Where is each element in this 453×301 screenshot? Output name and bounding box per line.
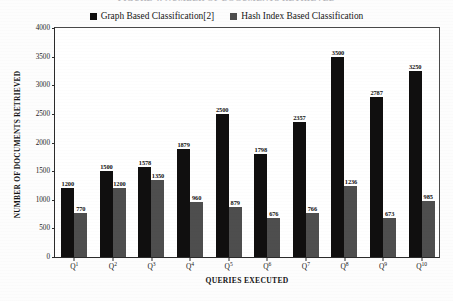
x-tick-label-q8: Q8	[340, 261, 348, 271]
bar-group: 35001236	[325, 28, 364, 257]
x-tick-label-q6: Q6	[263, 261, 271, 271]
x-tick-mark	[383, 257, 384, 261]
bar-q1-series2: 770	[74, 213, 87, 257]
bar-q1-series1: 1200	[61, 188, 74, 257]
y-tick-label: 2000	[36, 139, 55, 147]
bar-q9-series2: 673	[383, 218, 396, 257]
legend-label-series2: Hash Index Based Classification	[241, 11, 363, 21]
bar-value-label: 3500	[332, 49, 344, 56]
bar-value-label: 1879	[177, 141, 189, 148]
bar-q8-series2: 1236	[344, 186, 357, 257]
bar-q5-series1: 2500	[216, 114, 229, 257]
bar-q3-series1: 1578	[138, 167, 151, 257]
y-axis-title: NUMBER OF DOCUMENTS RETRIEVED	[13, 35, 22, 255]
bar-group: 1798676	[248, 28, 287, 257]
bar-value-label: 673	[385, 210, 394, 217]
bar-q6-series1: 1798	[254, 154, 267, 257]
x-tick-mark	[344, 257, 345, 261]
bar-value-label: 2500	[216, 106, 228, 113]
bar-value-label: 770	[76, 205, 85, 212]
figure-title-text: FIGURE 4: NUMBER OF DOCUMENTS RETRIEVED	[0, 0, 453, 3]
figure-title-clipped: FIGURE 4: NUMBER OF DOCUMENTS RETRIEVED	[0, 0, 453, 7]
bar-value-label: 2357	[293, 114, 305, 121]
x-tick-label-q9: Q9	[379, 261, 387, 271]
bar-group: 2787673	[364, 28, 403, 257]
bar-value-label: 1350	[152, 172, 164, 179]
bar-q7-series2: 766	[306, 213, 319, 257]
y-tick-label: 500	[39, 224, 55, 232]
x-tick-label-q7: Q7	[302, 261, 310, 271]
plot-area: 40003500300025002000150010005000 Q112007…	[54, 27, 440, 258]
legend-item-graph-based: Graph Based Classification[2]	[90, 11, 215, 21]
bar-q5-series2: 879	[229, 207, 242, 257]
bar-group: 15001200	[94, 28, 133, 257]
bar-value-label: 1798	[255, 146, 267, 153]
bar-value-label: 2787	[370, 89, 382, 96]
bar-q7-series1: 2357	[293, 122, 306, 257]
y-tick-label: 3000	[36, 81, 55, 89]
bar-value-label: 1500	[100, 163, 112, 170]
bar-group: 3250985	[402, 28, 441, 257]
bar-value-label: 766	[308, 205, 317, 212]
bar-group: 1200770	[55, 28, 94, 257]
bar-series-container: Q11200770Q215001200Q315781350Q41879960Q5…	[55, 28, 439, 257]
legend-item-hash-index: Hash Index Based Classification	[230, 11, 363, 21]
x-tick-label-q1: Q1	[70, 261, 78, 271]
bar-value-label: 1578	[139, 159, 151, 166]
x-tick-label-q3: Q3	[147, 261, 155, 271]
bar-value-label: 960	[192, 194, 201, 201]
bar-group: 2357766	[287, 28, 326, 257]
y-tick-label: 1500	[36, 167, 55, 175]
bar-group: 2500879	[209, 28, 248, 257]
bar-q10-series2: 985	[422, 201, 435, 257]
bar-value-label: 1200	[62, 180, 74, 187]
chart-legend: Graph Based Classification[2] Hash Index…	[0, 11, 453, 21]
x-tick-mark	[421, 257, 422, 261]
x-tick-mark	[74, 257, 75, 261]
bar-value-label: 676	[269, 210, 278, 217]
bar-group: 15781350	[132, 28, 171, 257]
x-tick-mark	[112, 257, 113, 261]
legend-swatch-icon-series2	[230, 13, 237, 20]
bar-value-label: 985	[424, 193, 433, 200]
y-tick-label: 1000	[36, 196, 55, 204]
x-tick-mark	[151, 257, 152, 261]
bar-q8-series1: 3500	[331, 57, 344, 257]
bar-q3-series2: 1350	[151, 180, 164, 257]
bar-q9-series1: 2787	[370, 97, 383, 257]
chart-page: FIGURE 4: NUMBER OF DOCUMENTS RETRIEVED …	[0, 0, 453, 301]
x-tick-label-q4: Q4	[186, 261, 194, 271]
bar-q4-series1: 1879	[177, 149, 190, 257]
bar-q2-series2: 1200	[113, 188, 126, 257]
x-tick-mark	[305, 257, 306, 261]
x-axis-title: QUERIES EXECUTED	[54, 276, 440, 285]
bar-q4-series2: 960	[190, 202, 203, 257]
bar-value-label: 1236	[345, 178, 357, 185]
y-tick-label: 0	[46, 253, 55, 261]
bar-value-label: 1200	[113, 180, 125, 187]
bar-q2-series1: 1500	[100, 171, 113, 257]
bar-q10-series1: 3250	[409, 71, 422, 257]
bar-q6-series2: 676	[267, 218, 280, 257]
x-tick-label-q2: Q2	[109, 261, 117, 271]
x-tick-mark	[190, 257, 191, 261]
bar-value-label: 879	[231, 199, 240, 206]
x-tick-label-q5: Q5	[225, 261, 233, 271]
x-tick-mark	[228, 257, 229, 261]
legend-swatch-icon-series1	[90, 13, 97, 20]
legend-label-series1: Graph Based Classification[2]	[101, 11, 215, 21]
bar-group: 1879960	[171, 28, 210, 257]
y-tick-label: 2500	[36, 110, 55, 118]
x-tick-mark	[267, 257, 268, 261]
y-tick-label: 3500	[36, 53, 55, 61]
y-tick-label: 4000	[36, 24, 55, 32]
x-tick-label-q10: Q10	[416, 261, 427, 271]
bar-value-label: 3250	[409, 63, 421, 70]
